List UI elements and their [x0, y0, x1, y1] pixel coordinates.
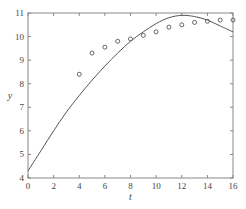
x-tick-label: 4: [77, 181, 82, 191]
x-tick-label: 16: [229, 181, 239, 191]
data-point: [193, 20, 197, 24]
x-tick-label: 8: [128, 181, 133, 191]
data-markers: [77, 18, 235, 76]
y-tick-label: 6: [20, 126, 25, 136]
x-tick-label: 14: [203, 181, 213, 191]
y-tick-label: 4: [20, 173, 25, 183]
data-point: [218, 18, 222, 22]
y-tick-label: 9: [20, 55, 25, 65]
plot-frame: [28, 13, 233, 178]
chart: 02468101214164567891011 t y: [0, 0, 246, 209]
data-point: [77, 72, 81, 76]
data-point: [90, 51, 94, 55]
x-tick-label: 12: [177, 181, 186, 191]
x-tick-label: 6: [103, 181, 108, 191]
x-tick-label: 0: [26, 181, 31, 191]
x-tick-label: 10: [152, 181, 162, 191]
y-tick-label: 10: [15, 32, 25, 42]
y-tick-label: 8: [20, 79, 25, 89]
tick-labels: 02468101214164567891011: [15, 8, 238, 191]
x-tick-label: 2: [51, 181, 56, 191]
data-point: [103, 45, 107, 49]
x-axis-label: t: [129, 191, 132, 202]
data-point: [116, 39, 120, 43]
data-point: [180, 23, 184, 27]
axes: [28, 13, 233, 178]
data-point: [141, 33, 145, 37]
data-point: [167, 25, 171, 29]
y-tick-label: 7: [20, 102, 25, 112]
data-point: [154, 30, 158, 34]
y-tick-label: 5: [20, 149, 25, 159]
y-axis-label: y: [7, 90, 13, 101]
ticks: [28, 13, 233, 178]
model-curve: [28, 15, 233, 171]
data-point: [129, 37, 133, 41]
y-tick-label: 11: [15, 8, 24, 18]
